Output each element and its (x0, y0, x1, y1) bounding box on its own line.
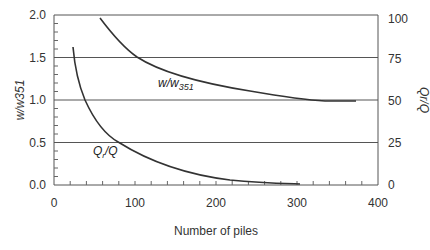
y-left-tick-labels: 2.0 1.5 1.0 0.5 0.0 (29, 8, 46, 192)
y-left-tick: 1.0 (29, 93, 46, 107)
y-right-tick: 100 (388, 12, 408, 26)
qr-ratio-curve-label: Qr/Q (93, 144, 118, 160)
x-tick: 0 (51, 196, 58, 210)
y-right-tick: 0 (388, 178, 395, 192)
y-right-tick: 75 (388, 52, 402, 66)
x-axis-title: Number of piles (174, 224, 258, 238)
x-tick: 100 (125, 196, 145, 210)
y-left-tick: 0.0 (29, 178, 46, 192)
x-tick-labels: 0 100 200 300 400 (51, 196, 389, 210)
y-right-tick: 25 (388, 136, 402, 150)
y-right-tick-labels: 100 75 50 25 0 (388, 12, 408, 192)
chart: 2.0 1.5 1.0 0.5 0.0 100 75 50 25 0 0 100… (0, 0, 430, 250)
w-ratio-curve (100, 18, 356, 101)
y-left-tick: 2.0 (29, 8, 46, 22)
qr-ratio-curve (73, 47, 300, 184)
y-right-tick: 50 (388, 94, 402, 108)
x-tick: 300 (287, 196, 307, 210)
x-minor-ticks (70, 181, 362, 185)
y-left-tick: 1.5 (29, 51, 46, 65)
x-tick: 200 (206, 196, 226, 210)
x-tick: 400 (368, 196, 388, 210)
y-right-axis-title: Qr/Q (417, 87, 430, 113)
y-left-tick: 0.5 (29, 136, 46, 150)
y-left-axis-title: w/w351 (13, 80, 27, 121)
